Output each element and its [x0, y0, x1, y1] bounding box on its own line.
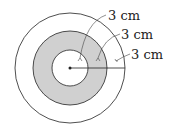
label-ring-width: 3 cm: [121, 27, 153, 42]
label-outer-width: 3 cm: [108, 8, 140, 23]
label-inner-radius: 3 cm: [131, 47, 163, 62]
concentric-circles-diagram: 3 cm 3 cm 3 cm: [0, 0, 173, 138]
